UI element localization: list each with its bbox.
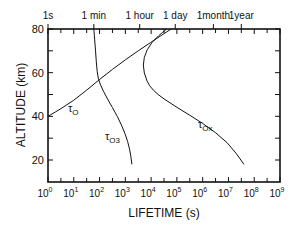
x-tick-label: 109	[269, 186, 284, 199]
y-tick-label: 20	[32, 154, 44, 166]
x-tick-label: 104	[141, 186, 156, 199]
x-tick-label: 103	[115, 186, 130, 199]
curve-label: τOx	[198, 118, 213, 133]
y-tick-label: 80	[32, 23, 44, 35]
x-axis-title: LIFETIME (s)	[128, 206, 199, 220]
chart: 1001011021031041051061071081091s1 min1 h…	[0, 0, 301, 228]
y-tick-label: 60	[32, 67, 44, 79]
x-tick-label: 100	[37, 186, 52, 199]
top-tick-label: 1month	[197, 10, 230, 21]
axis-ticks	[48, 24, 280, 182]
top-tick-label: 1 min	[82, 10, 106, 21]
x-tick-label: 101	[63, 186, 78, 199]
top-tick-label: 1 day	[163, 10, 187, 21]
x-tick-label: 105	[166, 186, 181, 199]
top-tick-label: 1 hour	[125, 10, 154, 21]
curve-label: τO	[68, 102, 79, 117]
plot-frame	[48, 29, 280, 182]
x-tick-label: 108	[244, 186, 259, 199]
x-tick-label: 107	[218, 186, 233, 199]
curve-label: τO3	[105, 130, 121, 145]
x-tick-label: 102	[89, 186, 104, 199]
top-tick-label: 1year	[229, 10, 255, 21]
y-tick-label: 40	[32, 110, 44, 122]
top-tick-label: 1s	[43, 10, 54, 21]
data-curves	[48, 29, 244, 164]
y-axis-title: ALTITUDE (km)	[14, 63, 28, 147]
curve-2	[143, 29, 244, 164]
axis-labels: 1001011021031041051061071081091s1 min1 h…	[32, 10, 285, 199]
x-tick-label: 106	[192, 186, 207, 199]
